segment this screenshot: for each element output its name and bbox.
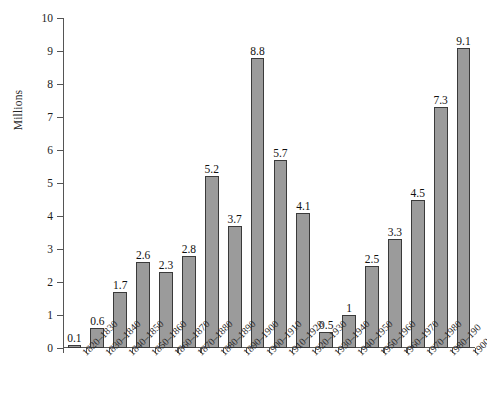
- bar-value-label: 2.5: [365, 253, 379, 265]
- y-axis-tick-label: 8: [47, 78, 53, 90]
- x-axis-label: 1880–1890: [218, 350, 226, 358]
- x-axis-label: 1950–1960: [378, 350, 386, 358]
- y-axis-title: Millions: [12, 50, 24, 170]
- x-axis-label: 1980–190: [447, 350, 455, 358]
- y-axis-tick-label: 7: [47, 111, 53, 123]
- bar-value-label: 1: [346, 302, 352, 314]
- y-axis-tick: 7: [57, 117, 63, 118]
- x-axis-label: 1930–1940: [332, 350, 340, 358]
- bar-value-label: 7.3: [433, 94, 447, 106]
- bar-value-label: 3.7: [227, 213, 241, 225]
- y-axis-tick-label: 0: [47, 342, 53, 354]
- y-axis-tick-label: 2: [47, 276, 53, 288]
- x-axis-label: 1870–1880: [195, 350, 203, 358]
- y-axis-tick-label: 6: [47, 144, 53, 156]
- x-axis-label: 1850–1860: [149, 350, 157, 358]
- y-axis-tick: 1: [57, 315, 63, 316]
- x-axis-labels: 1820–18301830–18401840–18501850–18601860…: [63, 350, 475, 408]
- x-axis-label: 1840–1850: [126, 350, 134, 358]
- y-axis-tick: 3: [57, 249, 63, 250]
- x-axis-label: 1900–1910: [264, 350, 272, 358]
- bar: 9.1: [457, 48, 471, 348]
- bar-chart: Millions 0.10.61.72.62.32.85.23.78.85.74…: [0, 0, 487, 408]
- bar: 5.7: [274, 160, 288, 348]
- y-axis-tick: 10: [57, 18, 63, 19]
- x-axis-label: 1890–1900: [241, 350, 249, 358]
- y-axis-tick: 5: [57, 183, 63, 184]
- y-axis-tick-label: 1: [47, 309, 53, 321]
- bar-value-label: 3.3: [388, 226, 402, 238]
- y-axis-tick: 6: [57, 150, 63, 151]
- x-axis-label: 1920–1930: [309, 350, 317, 358]
- y-axis-tick: 2: [57, 282, 63, 283]
- bar-value-label: 9.1: [456, 35, 470, 47]
- y-axis-tick: 8: [57, 84, 63, 85]
- y-axis-tick: 9: [57, 51, 63, 52]
- plot-area: 0.10.61.72.62.32.85.23.78.85.74.10.512.5…: [63, 18, 475, 348]
- x-axis-label: 1970–1980: [424, 350, 432, 358]
- x-axis-label: 1860–1870: [172, 350, 180, 358]
- bar-value-label: 5.2: [205, 163, 219, 175]
- bar-value-label: 2.6: [136, 249, 150, 261]
- bar: 8.8: [251, 58, 265, 348]
- y-axis-tick-label: 4: [47, 210, 53, 222]
- y-axis-tick-label: 3: [47, 243, 53, 255]
- bar-value-label: 2.8: [182, 243, 196, 255]
- bar-value-label: 5.7: [273, 147, 287, 159]
- bar-value-label: 0.1: [67, 332, 81, 344]
- bar-value-label: 1.7: [113, 279, 127, 291]
- bar-value-label: 8.8: [250, 45, 264, 57]
- x-axis-label: 1830–1840: [103, 350, 111, 358]
- bar-value-label: 4.5: [411, 187, 425, 199]
- x-axis-label: 1820–1830: [80, 350, 88, 358]
- bar-value-label: 0.6: [90, 315, 104, 327]
- y-axis-tick: 4: [57, 216, 63, 217]
- bar-value-label: 2.3: [159, 259, 173, 271]
- x-axis-label: 1900–2000: [470, 350, 478, 358]
- bars-layer: 0.10.61.72.62.32.85.23.78.85.74.10.512.5…: [63, 18, 475, 348]
- y-axis-tick-label: 5: [47, 177, 53, 189]
- x-axis-label: 1960–1970: [401, 350, 409, 358]
- bar-value-label: 4.1: [296, 200, 310, 212]
- bar: 0.1: [68, 345, 82, 348]
- y-axis-tick-label: 9: [47, 45, 53, 57]
- x-axis-label: 1910–1920: [286, 350, 294, 358]
- bar: 7.3: [434, 107, 448, 348]
- y-axis-tick-label: 10: [42, 12, 54, 24]
- x-axis-label: 1940–1950: [355, 350, 363, 358]
